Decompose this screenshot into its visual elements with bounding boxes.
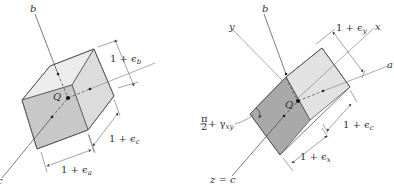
left-c-axis: [2, 117, 52, 178]
strain-diagram: Q b c 1 + ϵb 1 + ϵc 1 + ϵa y b: [0, 0, 394, 187]
left-dim-eps-c: 1 + ϵc: [109, 133, 140, 146]
right-x-axis-label: x: [375, 21, 381, 32]
left-dim-eps-b: 1 + ϵb: [110, 53, 142, 66]
right-origin-label: Q: [285, 99, 293, 110]
svg-text:2: 2: [201, 121, 207, 132]
right-y-axis-label: y: [228, 21, 235, 32]
right-a-axis-label: a: [387, 59, 393, 70]
right-angle-label: π 2 + γxy: [200, 113, 234, 132]
right-z-axis-label: z = c: [209, 174, 236, 185]
left-origin-point: [66, 96, 70, 100]
right-dim-eps-y: 1 + ϵy: [336, 22, 368, 35]
left-dim-eps-a: 1 + ϵa: [61, 164, 92, 177]
right-dim-eps-c: 1 + ϵc: [343, 119, 374, 132]
left-b-axis: [35, 14, 58, 74]
right-y-axis: [233, 30, 282, 80]
left-origin-label: Q: [53, 91, 61, 102]
right-origin-point: [296, 99, 300, 103]
right-b-axis-label: b: [262, 3, 268, 14]
left-b-axis-label: b: [30, 3, 36, 14]
right-parallelepiped-panel: y b x a z = c Q π 2 + γxy: [200, 3, 393, 185]
left-cube-panel: Q b c 1 + ϵb 1 + ϵc 1 + ϵa: [0, 3, 155, 186]
right-dim-eps-x: 1 + ϵx: [300, 151, 331, 164]
svg-text:+ γxy: + γxy: [208, 118, 234, 131]
left-c-axis-label: c: [0, 175, 3, 186]
